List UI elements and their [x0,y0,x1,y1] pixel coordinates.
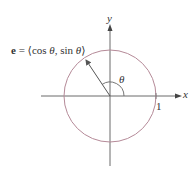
vector-label: e = ⟨cos θ, sin θ⟩ [11,45,86,56]
unit-circle-diagram [0,0,195,182]
y-axis-label: y [107,13,112,24]
x-axis-arrow-icon [175,94,182,99]
radius-one-label: 1 [156,101,162,112]
x-axis-label: x [183,89,188,100]
theta-label: θ [119,74,124,85]
y-axis-arrow-icon [108,24,113,31]
unit-vector-e [86,60,110,96]
